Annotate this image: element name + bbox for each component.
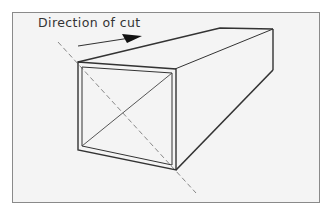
direction-of-cut-label: Direction of cut <box>38 15 141 30</box>
tube-diagram <box>0 0 332 214</box>
inner-diagonal <box>82 73 172 146</box>
tube-top-edge <box>78 28 273 62</box>
tube-front-outer <box>78 62 176 170</box>
cut-direction-arrow-shaft <box>78 38 130 46</box>
cut-direction-arrow-head <box>122 34 142 43</box>
tube-front-inner <box>82 67 172 165</box>
